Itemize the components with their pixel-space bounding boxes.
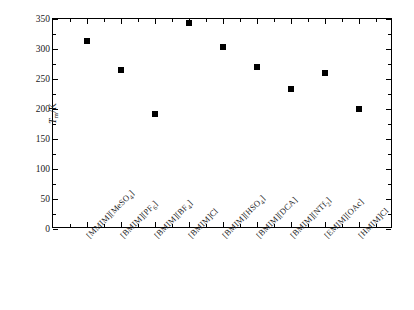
y-tick-major xyxy=(386,229,391,230)
y-tick-minor xyxy=(388,94,391,95)
y-tick-major xyxy=(53,199,58,200)
x-tick-minor xyxy=(274,19,275,22)
y-axis-label-symbol: T xyxy=(48,118,58,123)
x-tick-minor xyxy=(240,224,241,227)
y-tick-minor xyxy=(388,34,391,35)
y-tick-major xyxy=(386,169,391,170)
x-tick-major xyxy=(325,222,326,227)
x-tick-minor xyxy=(206,19,207,22)
x-tick-minor xyxy=(376,19,377,22)
x-tick-minor xyxy=(104,224,105,227)
y-tick-label: 150 xyxy=(20,134,50,144)
x-tick-major xyxy=(121,222,122,227)
x-tick-minor xyxy=(308,19,309,22)
y-tick-minor xyxy=(53,124,56,125)
data-point xyxy=(322,70,328,76)
x-tick-minor xyxy=(342,224,343,227)
x-tick-minor xyxy=(274,224,275,227)
y-tick-minor xyxy=(53,184,56,185)
x-tick-major xyxy=(325,19,326,24)
x-tick-minor xyxy=(138,19,139,22)
y-tick-major xyxy=(53,79,58,80)
y-tick-minor xyxy=(388,124,391,125)
x-tick-major xyxy=(291,19,292,24)
x-tick-minor xyxy=(308,224,309,227)
y-tick-major xyxy=(53,139,58,140)
y-tick-major xyxy=(386,199,391,200)
x-tick-minor xyxy=(172,224,173,227)
y-tick-major xyxy=(53,109,58,110)
x-tick-minor xyxy=(376,224,377,227)
x-tick-major xyxy=(359,222,360,227)
x-tick-major xyxy=(155,19,156,24)
y-tick-major xyxy=(386,49,391,50)
x-tick-minor xyxy=(138,224,139,227)
y-tick-major xyxy=(53,49,58,50)
chart-figure: Tm/K 050100150200250300350 [MMIM][MeSO4]… xyxy=(0,0,414,310)
x-tick-major xyxy=(87,222,88,227)
y-tick-major xyxy=(386,139,391,140)
data-point xyxy=(254,64,260,70)
y-tick-minor xyxy=(53,214,56,215)
y-tick-minor xyxy=(388,214,391,215)
y-tick-minor xyxy=(388,154,391,155)
y-tick-label: 250 xyxy=(20,74,50,84)
y-tick-major xyxy=(386,109,391,110)
x-tick-major xyxy=(257,222,258,227)
y-tick-label: 100 xyxy=(20,164,50,174)
x-tick-minor xyxy=(240,19,241,22)
x-tick-major xyxy=(291,222,292,227)
y-tick-major xyxy=(53,169,58,170)
x-tick-major xyxy=(87,19,88,24)
y-tick-label: 350 xyxy=(20,14,50,24)
x-tick-minor xyxy=(70,224,71,227)
y-tick-major xyxy=(386,79,391,80)
x-tick-minor xyxy=(70,19,71,22)
x-tick-minor xyxy=(104,19,105,22)
data-point xyxy=(152,111,158,117)
y-tick-label: 50 xyxy=(20,194,50,204)
x-tick-major xyxy=(359,19,360,24)
x-tick-minor xyxy=(206,224,207,227)
y-tick-label: 300 xyxy=(20,44,50,54)
y-tick-minor xyxy=(53,94,56,95)
y-tick-minor xyxy=(388,64,391,65)
x-tick-major xyxy=(121,19,122,24)
data-point xyxy=(118,67,124,73)
x-tick-major xyxy=(155,222,156,227)
y-tick-minor xyxy=(53,64,56,65)
y-tick-major xyxy=(386,19,391,20)
x-tick-major xyxy=(223,222,224,227)
data-point xyxy=(84,38,90,44)
y-tick-minor xyxy=(53,154,56,155)
x-tick-major xyxy=(257,19,258,24)
plot-area: Tm/K 050100150200250300350 xyxy=(52,18,392,228)
x-tick-minor xyxy=(172,19,173,22)
x-tick-major xyxy=(189,222,190,227)
y-tick-major xyxy=(53,229,58,230)
y-tick-major xyxy=(53,19,58,20)
y-axis-label-subscript: m xyxy=(52,113,60,119)
data-point xyxy=(220,44,226,50)
y-tick-minor xyxy=(53,34,56,35)
y-tick-label: 200 xyxy=(20,104,50,114)
x-tick-minor xyxy=(342,19,343,22)
y-tick-label: 0 xyxy=(20,224,50,234)
y-tick-minor xyxy=(388,184,391,185)
data-point xyxy=(288,86,294,92)
data-point xyxy=(186,20,192,26)
data-point xyxy=(356,106,362,112)
x-tick-major xyxy=(223,19,224,24)
